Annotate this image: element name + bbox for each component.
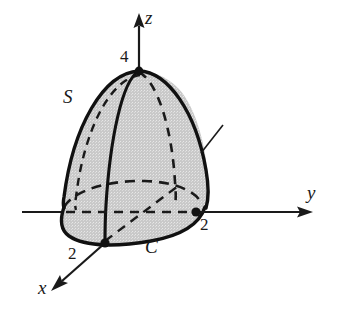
apex-point-marker [135, 67, 144, 76]
surface-leader-line [201, 125, 223, 153]
x-tick-label-2: 2 [68, 245, 77, 262]
z-axis-label: z [145, 8, 152, 27]
solid-body-texture [50, 60, 225, 255]
surface-label-S: S [63, 87, 73, 106]
curve-label-C: C [145, 237, 158, 256]
x-intercept-point-marker [100, 238, 109, 247]
y-tick-label-2: 2 [200, 216, 209, 233]
math-figure: z y x 4 2 2 S C [0, 0, 348, 315]
z-axis-arrowhead [134, 13, 145, 28]
z-tick-label-4: 4 [120, 48, 129, 65]
diagram-canvas [0, 0, 348, 315]
x-axis-label: x [38, 278, 46, 297]
y-axis-label: y [307, 183, 315, 202]
